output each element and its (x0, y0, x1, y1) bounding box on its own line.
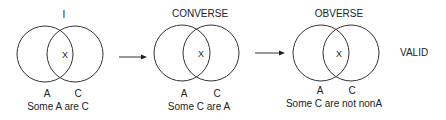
venn-diagram-sequence: I X A C Some A are C CONVERSE X A C Some… (0, 0, 446, 120)
label-a: A (181, 88, 188, 99)
intersection-mark: X (62, 50, 68, 60)
caption: Some C are A (168, 101, 231, 112)
diagram-title: I (63, 9, 66, 20)
circle-c (183, 25, 239, 81)
circle-c (323, 25, 379, 81)
caption: Some A are C (27, 101, 89, 112)
label-c: C (348, 85, 355, 96)
venn-diagram-converse: CONVERSE X A C Some C are A (154, 8, 239, 112)
venn-diagram-i: I X A C Some A are C (17, 9, 103, 112)
label-c: C (74, 88, 81, 99)
diagram-title: CONVERSE (172, 8, 228, 19)
label-a: A (317, 85, 324, 96)
label-c: C (213, 88, 220, 99)
validity-label: VALID (400, 47, 428, 58)
intersection-mark: X (198, 49, 204, 59)
diagram-title: OBVERSE (315, 8, 364, 19)
arrow-right-icon (255, 51, 285, 56)
venn-diagram-obverse: OBVERSE X A C Some C are not nonA (286, 8, 382, 109)
arrow-right-icon (119, 55, 147, 60)
circle-c (47, 26, 103, 82)
label-a: A (44, 88, 51, 99)
caption: Some C are not nonA (286, 98, 382, 109)
intersection-mark: X (336, 49, 342, 59)
